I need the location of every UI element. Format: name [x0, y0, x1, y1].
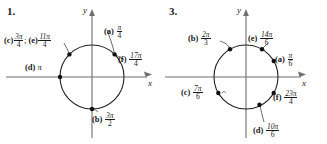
value-pi: π — [38, 62, 42, 72]
label-tag-f: (f) — [273, 92, 282, 102]
fraction-3pi-over-4: 3π4 — [14, 33, 24, 50]
label-tag-c: (c) — [181, 87, 190, 97]
x-axis-1 — [6, 72, 152, 78]
panel-problem-1: 1. y x — [0, 0, 163, 144]
label-b-panel-3: (b) 2π3 — [188, 31, 211, 48]
x-axis-label-1: x — [148, 78, 152, 88]
denominator: 4 — [129, 60, 142, 68]
point-10pi-over-6 — [257, 103, 261, 107]
label-tag-c: (c) — [4, 35, 13, 45]
x-axis-3 — [165, 72, 306, 78]
denominator: 4 — [38, 41, 51, 49]
fraction-2pi-over-3: 2π3 — [201, 31, 211, 48]
label-f-panel-3: (f) 23π4 — [273, 90, 298, 107]
denominator: 6 — [266, 131, 279, 139]
point-14pi-over-6 — [260, 47, 264, 51]
label-c-e-panel-1: (c)3π4; (e)11π4 — [4, 33, 52, 50]
label-c-panel-3: (c) 7π6 — [181, 85, 203, 102]
panel-problem-3: 3. — [163, 0, 327, 144]
panel-1-graphic — [0, 0, 163, 144]
denominator: 6 — [260, 39, 273, 47]
point-pi-over-4 — [112, 52, 116, 56]
fraction-10pi-over-6: 10π6 — [266, 123, 279, 140]
label-tag-a: (a) — [275, 54, 285, 64]
point-pi — [58, 75, 62, 79]
label-tag-e: (e) — [248, 33, 257, 43]
leader-line-c-3 — [222, 91, 226, 93]
label-a-panel-3: (a) π6 — [275, 52, 294, 69]
point-3pi-over-4 — [67, 52, 71, 56]
label-tag-f: (f) — [118, 54, 127, 64]
point-7pi-over-6 — [216, 91, 220, 95]
denominator: 4 — [14, 41, 24, 49]
label-d-panel-1: (d) π — [25, 63, 42, 72]
label-tag-b: (b) — [188, 33, 198, 43]
label-tag-e: (e) — [28, 35, 37, 45]
panel-3-graphic — [163, 0, 327, 144]
y-axis-label-1: y — [83, 5, 87, 15]
label-a-panel-1: (a) π4 — [104, 24, 123, 41]
point-2pi-over-3 — [228, 47, 232, 51]
label-tag-d: (d) — [25, 62, 35, 72]
fraction-pi-over-6: π6 — [288, 52, 294, 69]
label-tag-b: (b) — [92, 114, 102, 124]
label-tag-a: (a) — [104, 26, 114, 36]
point-3pi-over-2 — [90, 107, 94, 111]
label-f-panel-1: (f) 17π4 — [118, 52, 143, 69]
denominator: 6 — [288, 60, 294, 68]
denominator: 2 — [105, 120, 115, 128]
fraction-23pi-over-4: 23π4 — [284, 90, 297, 107]
fraction-pi-over-4: π4 — [117, 24, 123, 41]
fraction-17pi-over-4: 17π4 — [129, 52, 142, 69]
label-d-panel-3: (d) 10π6 — [253, 123, 280, 140]
denominator: 6 — [193, 93, 203, 101]
fraction-11pi-over-4: 11π4 — [38, 33, 51, 50]
label-b-panel-1: (b) 3π2 — [92, 112, 115, 129]
label-separator: ; — [24, 35, 26, 45]
y-axis-label-3: y — [237, 5, 241, 15]
y-axis-3 — [243, 9, 249, 138]
figure-container: 1. y x — [0, 0, 327, 144]
label-tag-d: (d) — [253, 125, 263, 135]
fraction-7pi-over-6: 7π6 — [193, 85, 203, 102]
denominator: 3 — [201, 39, 211, 47]
denominator: 4 — [117, 32, 123, 40]
label-e-panel-3: (e) 14π6 — [248, 31, 274, 48]
denominator: 4 — [284, 98, 297, 106]
fraction-14pi-over-6: 14π6 — [260, 31, 273, 48]
fraction-3pi-over-2: 3π2 — [105, 112, 115, 129]
x-axis-label-3: x — [302, 78, 306, 88]
